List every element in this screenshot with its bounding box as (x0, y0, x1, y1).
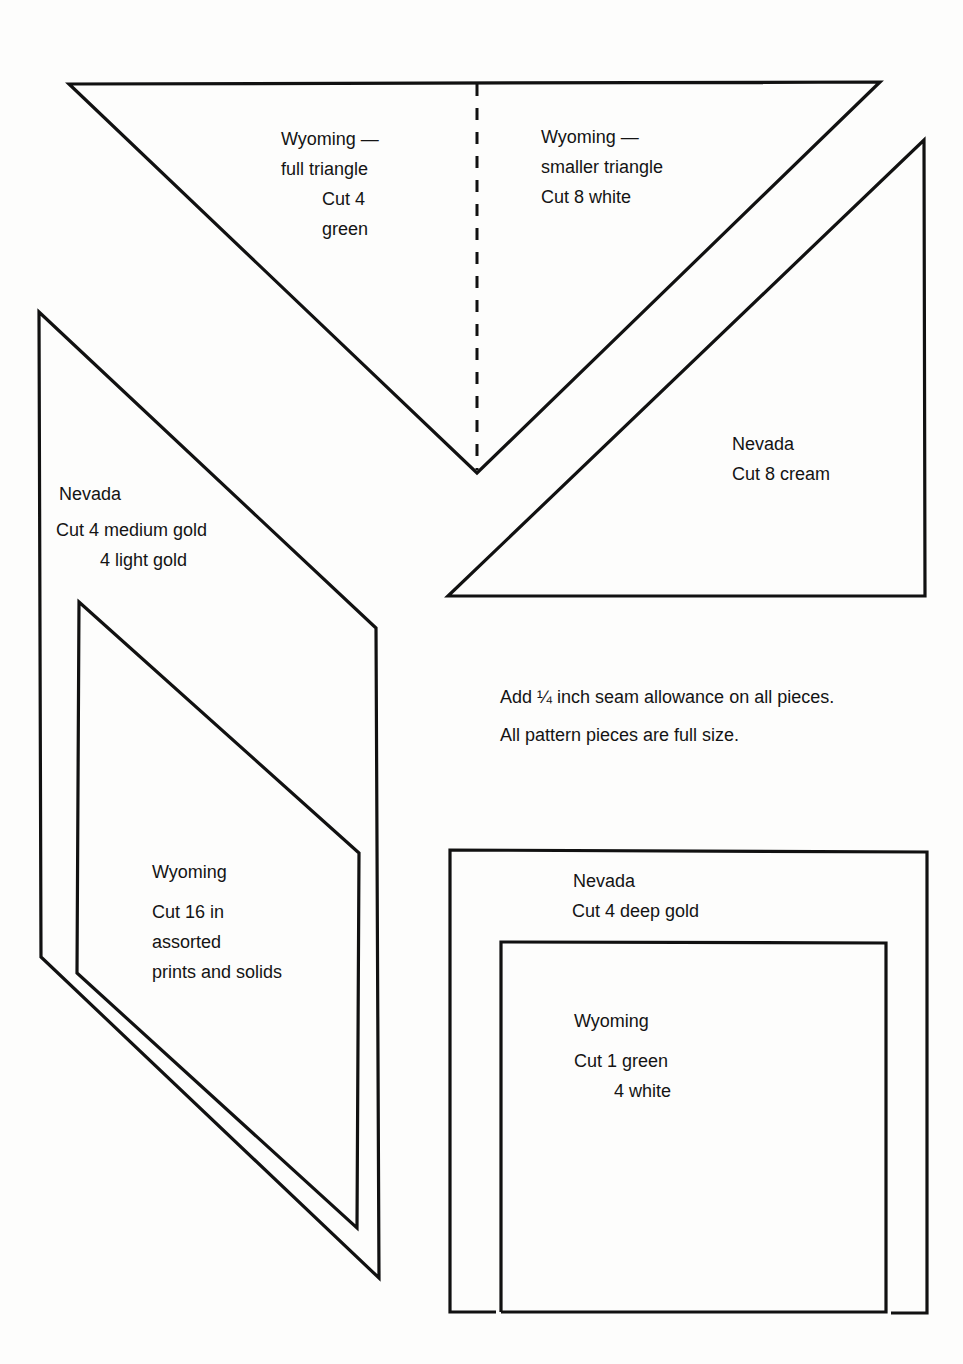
piece-shape: smaller triangle (541, 152, 663, 182)
wyoming-full-triangle-outline (69, 82, 880, 473)
piece-name: Wyoming — (281, 124, 379, 154)
cut-color: green (281, 214, 379, 244)
cut-instruction-3: prints and solids (152, 957, 282, 987)
nevada-square-label: Nevada Cut 4 deep gold (573, 866, 699, 926)
piece-name: Nevada (573, 866, 699, 896)
piece-name: Wyoming (152, 857, 282, 887)
wyoming-square-outline (501, 942, 886, 1312)
nevada-triangle-outline (448, 140, 925, 596)
wyoming-smaller-triangle-label: Wyoming — smaller triangle Cut 8 white (541, 122, 663, 212)
piece-name: Nevada (732, 429, 830, 459)
nevada-parallelogram-label: Nevada Cut 4 medium gold 4 light gold (56, 479, 207, 575)
piece-name: Wyoming — (541, 122, 663, 152)
cut-instruction: Cut 8 white (541, 182, 663, 212)
nevada-triangle-label: Nevada Cut 8 cream (732, 429, 830, 489)
piece-shape: full triangle (281, 154, 379, 184)
cut-instruction-2: 4 light gold (56, 545, 207, 575)
wyoming-square-label: Wyoming Cut 1 green 4 white (574, 1006, 671, 1106)
cut-instruction: Cut 8 cream (732, 459, 830, 489)
piece-name: Nevada (56, 479, 207, 509)
notes: Add ¼ inch seam allowance on all pieces.… (500, 675, 834, 757)
cut-instruction: Cut 4 medium gold (56, 515, 207, 545)
wyoming-full-triangle-label: Wyoming — full triangle Cut 4 green (281, 124, 379, 244)
cut-instruction-2: assorted (152, 927, 282, 957)
cut-instruction-2: 4 white (574, 1076, 671, 1106)
cut-instruction: Cut 4 deep gold (572, 896, 699, 926)
cut-instruction: Cut 4 (281, 184, 379, 214)
full-size-note: All pattern pieces are full size. (500, 713, 834, 757)
cut-instruction: Cut 1 green (574, 1046, 671, 1076)
piece-name: Wyoming (574, 1006, 671, 1036)
wyoming-parallelogram-label: Wyoming Cut 16 in assorted prints and so… (152, 857, 282, 987)
cut-instruction: Cut 16 in (152, 897, 282, 927)
nevada-parallelogram-outline (39, 312, 379, 1278)
